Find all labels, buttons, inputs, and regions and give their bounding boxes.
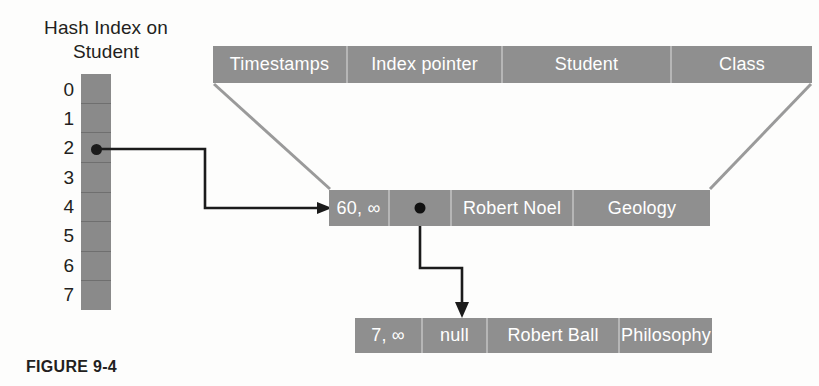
hash-slot-label-2: 2: [48, 138, 74, 158]
record-1-index-pointer: [390, 190, 452, 226]
record-2-student: Robert Ball: [488, 318, 620, 353]
figure-caption: FIGURE 9-4: [26, 358, 117, 376]
hash-slot-cell-3: [81, 163, 111, 193]
hash-slot-cell-6: [81, 252, 111, 282]
diagonal-guide-right: [710, 84, 811, 189]
hash-slot-2-pointer-dot-icon: [91, 144, 102, 155]
record-1-timestamps: 60, ∞: [329, 190, 390, 226]
hash-slot-label-4: 4: [48, 197, 74, 217]
hash-index-title-line-2: Student: [16, 40, 196, 64]
hash-slot-label-1: 1: [48, 109, 74, 129]
header-cell-class: Class: [672, 46, 812, 83]
hash-slot-label-5: 5: [48, 226, 74, 246]
table-row: 7, ∞ null Robert Ball Philosophy: [355, 318, 712, 353]
record-1-class: Geology: [574, 190, 710, 226]
record-1-student: Robert Noel: [452, 190, 574, 226]
figure-9-4: Hash Index on Student 0 1 2 3 4 5 6 7 Ti…: [0, 0, 819, 386]
header-cell-index-pointer: Index pointer: [348, 46, 503, 83]
hash-slot-cell-1: [81, 104, 111, 134]
diagonal-guide-left: [214, 84, 330, 189]
header-cell-timestamps: Timestamps: [213, 46, 348, 83]
hash-index-column: [81, 74, 111, 310]
hash-slot-label-7: 7: [48, 285, 74, 305]
hash-slot-cell-5: [81, 222, 111, 252]
arrowhead-record-1-to-record-2: [455, 302, 469, 318]
record-2-timestamps: 7, ∞: [355, 318, 423, 353]
hash-slot-cell-7: [81, 281, 111, 310]
hash-slot-cell-0: [81, 74, 111, 104]
table-header-row: Timestamps Index pointer Student Class: [213, 46, 812, 83]
hash-slot-label-0: 0: [48, 80, 74, 100]
record-2-class: Philosophy: [620, 318, 712, 353]
hash-slot-cell-4: [81, 193, 111, 223]
hash-index-title: Hash Index on Student: [16, 16, 196, 64]
hash-slot-label-3: 3: [48, 168, 74, 188]
arrow-hash-to-record-1: [96, 149, 322, 208]
header-cell-student: Student: [503, 46, 672, 83]
hash-slot-label-6: 6: [48, 256, 74, 276]
hash-index-title-line-1: Hash Index on: [16, 16, 196, 40]
record-2-index-pointer: null: [423, 318, 488, 353]
table-row: 60, ∞ Robert Noel Geology: [329, 190, 710, 226]
record-1-pointer-dot-icon: [415, 203, 426, 214]
